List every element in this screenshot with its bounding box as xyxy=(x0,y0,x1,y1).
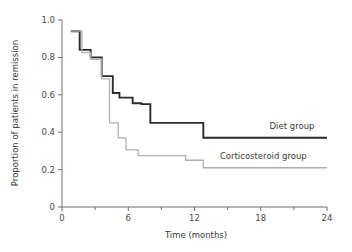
y-axis-tick-label: 0.2 xyxy=(41,165,55,175)
y-axis-tick-label: 1.0 xyxy=(41,15,55,25)
x-axis-tick-label: 6 xyxy=(126,213,131,223)
x-axis-tick-label: 0 xyxy=(59,213,64,223)
y-axis-title-group: Proportion of patients in remission xyxy=(10,40,20,186)
series-label: Diet group xyxy=(270,121,315,131)
chart-canvas: 00.20.40.60.81.0 06121824 Diet groupCort… xyxy=(0,0,352,252)
series-label: Corticosteroid group xyxy=(220,151,307,161)
y-axis-tick-label: 0 xyxy=(50,202,55,212)
x-axis-tick-label: 18 xyxy=(255,213,266,223)
x-axis-tick-label: 24 xyxy=(322,213,333,223)
y-axis-tick-label: 0.4 xyxy=(41,127,55,137)
y-axis-title: Proportion of patients in remission xyxy=(10,40,20,186)
x-axis-title-group: Time (months) xyxy=(164,230,227,240)
y-axis-tick-label: 0.8 xyxy=(41,52,55,62)
y-axis-tick-label: 0.6 xyxy=(41,90,55,100)
x-axis-title: Time (months) xyxy=(164,230,227,240)
kaplan-meier-chart: 00.20.40.60.81.0 06121824 Diet groupCort… xyxy=(0,0,352,252)
x-axis-tick-label: 12 xyxy=(189,213,200,223)
